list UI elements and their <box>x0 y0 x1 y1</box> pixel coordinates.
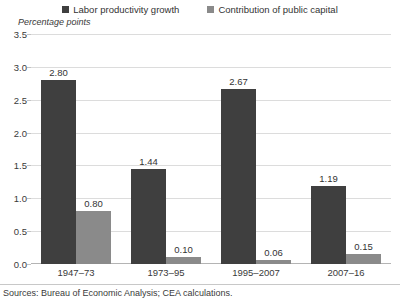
x-axis-label: 1947–73 <box>31 267 121 278</box>
y-axis-label: 0.5 <box>1 226 27 237</box>
legend-label-secondary: Contribution of public capital <box>218 4 337 15</box>
y-axis-label: 2.5 <box>1 94 27 105</box>
x-axis-label: 2007–16 <box>301 267 391 278</box>
bar-contribution-of-public-capital[interactable]: 0.80 <box>76 34 111 264</box>
bar-value-label: 0.80 <box>84 198 103 209</box>
bar-group: 2.670.06 <box>211 34 301 264</box>
y-axis-label: 0.0 <box>1 259 27 270</box>
bar-labor-productivity-growth[interactable]: 1.19 <box>311 34 346 264</box>
bar-fill <box>221 89 256 264</box>
bar-fill <box>76 211 111 264</box>
bar-fill <box>166 257 201 264</box>
y-axis-tick <box>27 264 31 265</box>
bar-pair: 2.670.06 <box>211 34 301 264</box>
legend-item-labor-productivity-growth: Labor productivity growth <box>62 4 179 15</box>
bar-labor-productivity-growth[interactable]: 2.67 <box>221 34 256 264</box>
bar-pair: 1.190.15 <box>301 34 391 264</box>
bar-value-label: 2.80 <box>49 67 68 78</box>
bar-group: 1.440.10 <box>121 34 211 264</box>
bar-group: 1.190.15 <box>301 34 391 264</box>
y-axis-label: 2.0 <box>1 127 27 138</box>
source-divider <box>0 284 400 285</box>
x-axis-labels: 1947–731973–951995–20072007–16 <box>31 267 391 278</box>
bar-contribution-of-public-capital[interactable]: 0.10 <box>166 34 201 264</box>
legend-label-primary: Labor productivity growth <box>73 4 179 15</box>
bar-group: 2.800.80 <box>31 34 121 264</box>
y-axis-label: 1.0 <box>1 193 27 204</box>
y-axis-label: 3.0 <box>1 61 27 72</box>
bar-value-label: 0.10 <box>174 244 193 255</box>
legend-swatch-secondary-icon <box>207 6 214 13</box>
chart-legend: Labor productivity growth Contribution o… <box>0 2 400 16</box>
y-axis-label: 1.5 <box>1 160 27 171</box>
y-axis-title: Percentage points <box>18 17 91 27</box>
legend-item-contribution-of-public-capital: Contribution of public capital <box>207 4 337 15</box>
bar-labor-productivity-growth[interactable]: 1.44 <box>131 34 166 264</box>
x-axis-label: 1973–95 <box>121 267 211 278</box>
x-axis-label: 1995–2007 <box>211 267 301 278</box>
bar-fill <box>41 80 76 264</box>
bar-pair: 2.800.80 <box>31 34 121 264</box>
bar-fill <box>311 186 346 264</box>
bar-groups: 2.800.801.440.102.670.061.190.15 <box>31 34 391 264</box>
bar-labor-productivity-growth[interactable]: 2.80 <box>41 34 76 264</box>
bar-fill <box>346 254 381 264</box>
legend-swatch-primary-icon <box>62 6 69 13</box>
source-note: Sources: Bureau of Economic Analysis; CE… <box>3 288 233 298</box>
bar-contribution-of-public-capital[interactable]: 0.15 <box>346 34 381 264</box>
bar-pair: 1.440.10 <box>121 34 211 264</box>
bar-contribution-of-public-capital[interactable]: 0.06 <box>256 34 291 264</box>
y-axis: 0.00.51.01.52.02.53.03.5 <box>0 34 27 264</box>
y-axis-label: 3.5 <box>1 29 27 40</box>
bar-value-label: 0.15 <box>354 241 373 252</box>
bar-fill <box>131 169 166 264</box>
bar-value-label: 2.67 <box>229 76 248 87</box>
bar-value-label: 1.44 <box>139 156 158 167</box>
bar-fill <box>256 260 291 264</box>
bar-value-label: 1.19 <box>319 173 338 184</box>
bar-value-label: 0.06 <box>264 247 283 258</box>
